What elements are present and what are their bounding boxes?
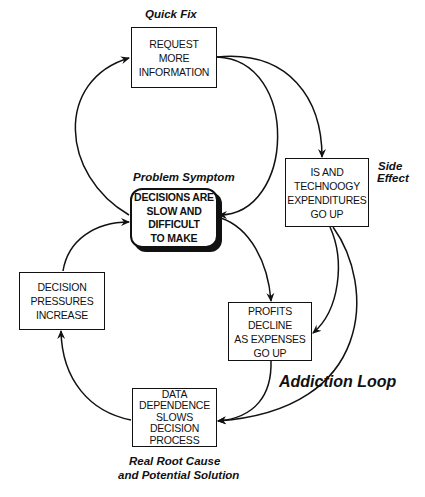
edge-profits-to-dependence <box>218 361 271 421</box>
node-text: INCREASE <box>36 308 88 322</box>
edge-symptom-to-request <box>75 58 129 215</box>
node-request-more-information: REQUEST MORE INFORMATION <box>131 27 217 88</box>
side-effect-label-line2: Effect <box>377 172 409 185</box>
node-text: EXPENDITURES <box>287 193 366 207</box>
node-text: REQUEST <box>149 37 198 51</box>
edge-pressures-to-symptom <box>63 222 129 271</box>
node-profits-decline: PROFITS DECLINE AS EXPENSES GO UP <box>228 302 312 361</box>
node-text: TECHNOOGY <box>294 179 360 193</box>
node-text: PROFITS <box>248 304 292 318</box>
addiction-loop-label: Addiction Loop <box>279 373 396 391</box>
node-text: AS EXPENSES <box>234 332 305 346</box>
node-text: INFORMATION <box>139 65 210 79</box>
node-text: MORE <box>159 51 190 65</box>
node-text: PRESSURES <box>31 294 94 308</box>
node-text: DECISION <box>37 280 86 294</box>
node-text: GO UP <box>254 346 287 360</box>
node-is-technology-expenditures: IS AND TECHNOOGY EXPENDITURES GO UP <box>285 158 369 227</box>
node-text: DECISIONS ARE <box>134 191 214 205</box>
root-cause-label-line1: Real Root Cause <box>129 455 220 468</box>
node-data-dependence: DATA DEPENDENCE SLOWS DECISION PROCESS <box>132 388 217 447</box>
quick-fix-label: Quick Fix <box>145 8 197 21</box>
node-text: GO UP <box>311 207 344 221</box>
node-text: TO MAKE <box>151 232 198 246</box>
edge-dependence-to-pressures <box>61 331 131 420</box>
edge-request-to-symptom <box>217 57 278 215</box>
edge-symptom-to-profits <box>221 218 271 301</box>
edge-request-to-expenditures <box>217 56 322 157</box>
node-text: PROCESS <box>150 435 200 447</box>
node-text: DECLINE <box>248 318 292 332</box>
edge-expenditures-to-profits <box>313 227 338 333</box>
root-cause-label-line2: and Potential Solution <box>118 469 239 482</box>
node-decisions-slow: DECISIONS ARE SLOW AND DIFFICULT TO MAKE <box>130 188 218 248</box>
node-text: DIFFICULT <box>148 218 200 232</box>
node-text: SLOW AND <box>146 205 201 219</box>
problem-symptom-label: Problem Symptom <box>133 171 235 184</box>
node-text: IS AND <box>310 165 343 179</box>
node-decision-pressures-increase: DECISION PRESSURES INCREASE <box>19 272 105 330</box>
